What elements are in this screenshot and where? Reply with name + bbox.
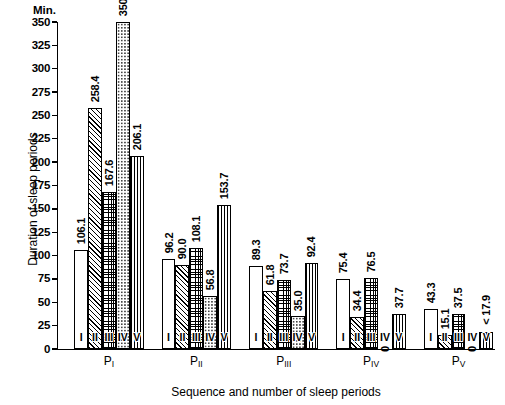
bar-slot[interactable]: IV0 xyxy=(378,22,392,349)
bar-slot[interactable]: 153.7V xyxy=(217,22,231,349)
bar-group: 96.2I90.0II108.1III56.8IV153.7V xyxy=(162,22,231,349)
bar-slot[interactable]: 106.1I xyxy=(74,22,88,349)
y-axis-tick-label: 350 xyxy=(20,16,50,28)
bar-slot[interactable]: 43.3I xyxy=(424,22,438,349)
bar-category-label: V xyxy=(305,331,319,343)
group-caption: PII xyxy=(162,354,231,368)
bar-value-label: 106.1 xyxy=(75,218,87,245)
bar-slot[interactable]: IV0 xyxy=(465,22,479,349)
bar-slot[interactable]: 35.0IV xyxy=(291,22,305,349)
bar-category-label: IV xyxy=(378,331,392,343)
bar-slot[interactable]: 37.5III xyxy=(452,22,466,349)
bar-group: 89.3I61.8II73.7III35.0IV92.4V xyxy=(249,22,318,349)
y-axis-tick-label: 25 xyxy=(20,319,50,331)
bar-category-label: V xyxy=(130,331,144,343)
bar-category-label: I xyxy=(336,331,350,343)
bar-zero-value-label: 0 xyxy=(466,346,478,352)
bar-slot[interactable]: 73.7III xyxy=(277,22,291,349)
bar-value-label: 61.8 xyxy=(264,265,276,286)
bar-slot[interactable]: 206.1V xyxy=(130,22,144,349)
y-axis-tick xyxy=(52,68,57,69)
y-axis-tick-label-wrap: 50 xyxy=(14,296,50,308)
y-axis-tick-label-wrap: 125 xyxy=(14,226,50,238)
bar-slot[interactable]: 90.0II xyxy=(175,22,189,349)
bar[interactable] xyxy=(88,108,102,349)
y-axis-tick xyxy=(52,185,57,186)
bar-slot[interactable]: 89.3I xyxy=(249,22,263,349)
bar[interactable] xyxy=(116,22,130,349)
y-axis-tick-label-wrap: 100 xyxy=(14,249,50,261)
bar-value-label: 350.2 xyxy=(117,0,129,16)
bar[interactable] xyxy=(130,156,144,349)
bar-slot[interactable]: 75.4I xyxy=(336,22,350,349)
y-axis-tick-label-wrap: 350 xyxy=(14,16,50,28)
y-axis-tick xyxy=(52,115,57,116)
bar-value-label: 76.5 xyxy=(365,251,377,272)
bar-category-label: IV xyxy=(291,331,305,343)
y-axis-unit-label: Min. xyxy=(33,4,56,16)
bar-value-label: 167.6 xyxy=(103,160,115,187)
bar-value-label: 35.0 xyxy=(292,290,304,311)
bar-category-label: III xyxy=(452,331,466,343)
y-axis-tick-label: 125 xyxy=(20,226,50,238)
bar-value-label: 34.4 xyxy=(351,291,363,312)
y-axis-tick-label: 250 xyxy=(20,109,50,121)
bar-category-label: II xyxy=(438,331,452,343)
y-axis-tick xyxy=(52,348,57,349)
bar-slot[interactable]: 258.4II xyxy=(88,22,102,349)
y-axis-tick xyxy=(52,138,57,139)
bar-category-label: II xyxy=(175,331,189,343)
bar-category-label: I xyxy=(162,331,176,343)
group-caption-subscript: V xyxy=(460,359,466,369)
bar-group: 43.3I15.1II37.5IIIIV0< 17.9V xyxy=(424,22,493,349)
y-axis-tick-label: 50 xyxy=(20,296,50,308)
bar-value-label: 92.4 xyxy=(305,237,317,258)
bar-value-label: 89.3 xyxy=(250,239,262,260)
bar-slot[interactable]: 350.2IV xyxy=(116,22,130,349)
bar-category-label: I xyxy=(74,331,88,343)
bar-group: 106.1I258.4II167.6III350.2IV206.1V xyxy=(74,22,143,349)
bar-value-label: 258.4 xyxy=(89,75,101,102)
y-axis-tick-label: 75 xyxy=(20,272,50,284)
bar-slot[interactable]: 56.8IV xyxy=(203,22,217,349)
bar-value-label: 56.8 xyxy=(204,270,216,291)
y-axis-tick-label: 325 xyxy=(20,39,50,51)
bar-value-label: < 17.9 xyxy=(480,295,492,325)
bar-group: 75.4I34.4II76.5IIIIV037.7V xyxy=(336,22,405,349)
y-axis-tick-label-wrap: 200 xyxy=(14,156,50,168)
bar-slot[interactable]: 92.4V xyxy=(305,22,319,349)
y-axis-tick xyxy=(52,278,57,279)
bar-value-label: 108.1 xyxy=(190,216,202,243)
bar-category-label: V xyxy=(217,331,231,343)
plot-area: 106.1I258.4II167.6III350.2IV206.1V96.2I9… xyxy=(58,22,495,349)
bar-slot[interactable]: 61.8II xyxy=(263,22,277,349)
group-caption: PI xyxy=(74,354,143,368)
bar-slot[interactable]: 34.4II xyxy=(350,22,364,349)
bar-slot[interactable]: 167.6III xyxy=(102,22,116,349)
bar-value-label: 90.0 xyxy=(176,239,188,260)
bar-slot[interactable]: 15.1II xyxy=(438,22,452,349)
bar-slot[interactable]: < 17.9V xyxy=(479,22,493,349)
y-axis-tick-label-wrap: 150 xyxy=(14,202,50,214)
bar-slot[interactable]: 37.7V xyxy=(392,22,406,349)
group-caption-main: P xyxy=(190,354,198,368)
group-caption-main: P xyxy=(452,354,460,368)
bar-slot[interactable]: 108.1III xyxy=(189,22,203,349)
bar-slot[interactable]: 96.2I xyxy=(162,22,176,349)
bar-slot[interactable]: 76.5III xyxy=(364,22,378,349)
bar-value-label: 37.7 xyxy=(393,288,405,309)
bar[interactable] xyxy=(217,205,231,349)
group-caption-subscript: IV xyxy=(371,359,379,369)
bar-value-label: 206.1 xyxy=(131,124,143,151)
bar-category-label: I xyxy=(249,331,263,343)
bar[interactable] xyxy=(102,192,116,349)
group-caption-main: P xyxy=(276,354,284,368)
y-axis-tick xyxy=(52,21,57,22)
y-axis-tick xyxy=(52,302,57,303)
y-axis-tick-label-wrap: 300 xyxy=(14,62,50,74)
bar-value-label: 43.3 xyxy=(425,282,437,303)
bar-value-label: 75.4 xyxy=(337,252,349,273)
bar-category-label: II xyxy=(350,331,364,343)
bar-category-label: I xyxy=(424,331,438,343)
y-axis-tick-label-wrap: 275 xyxy=(14,86,50,98)
